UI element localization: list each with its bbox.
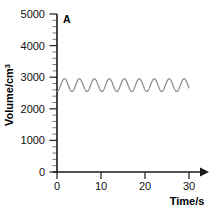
y-axis-tick-labels: 010002000300040005000 [21, 8, 45, 178]
x-axis-arrow-icon [200, 168, 209, 177]
x-tick-label: 30 [183, 180, 195, 192]
y-tick-label: 1000 [21, 134, 45, 146]
y-tick-label: 0 [39, 166, 45, 178]
x-axis-major-ticks [57, 172, 189, 179]
y-tick-label: 5000 [21, 8, 45, 20]
y-tick-label: 3000 [21, 71, 45, 83]
x-tick-label: 0 [54, 180, 60, 192]
volume-time-chart: 010002000300040005000 0102030 A Time/s V… [0, 0, 216, 214]
chart-canvas: 010002000300040005000 0102030 A Time/s V… [0, 0, 216, 214]
x-axis-title: Time/s [170, 195, 205, 207]
breathing-trace-a [57, 79, 189, 92]
y-tick-label: 4000 [21, 40, 45, 52]
x-tick-label: 20 [139, 180, 151, 192]
x-tick-label: 10 [95, 180, 107, 192]
x-axis-tick-labels: 0102030 [54, 180, 195, 192]
y-tick-label: 2000 [21, 103, 45, 115]
y-axis-title: Volume/cm3 [3, 64, 16, 126]
y-axis-title-group: Volume/cm3 [3, 64, 16, 126]
curve-label-a: A [63, 13, 71, 25]
y-axis-major-ticks [50, 14, 58, 172]
